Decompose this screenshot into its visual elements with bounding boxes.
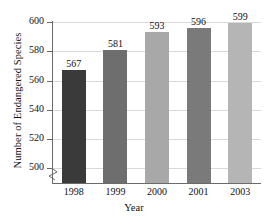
bar-column[interactable]: 596 — [187, 22, 211, 183]
bar-column[interactable]: 581 — [103, 22, 127, 183]
bar-value-label: 596 — [191, 16, 206, 27]
bar-value-label: 581 — [108, 38, 123, 49]
bar-value-label: 593 — [150, 20, 165, 31]
y-axis-line — [52, 21, 53, 184]
bar-column[interactable]: 567 — [62, 22, 86, 183]
y-tick-label: 520 — [4, 132, 44, 143]
x-tick-label: 1999 — [95, 186, 135, 197]
x-axis-line — [52, 183, 261, 184]
x-tick-label: 2003 — [220, 186, 260, 197]
x-axis-title: Year — [0, 202, 268, 213]
bar[interactable] — [145, 32, 169, 183]
x-tick-label: 1998 — [54, 186, 94, 197]
bar-column[interactable]: 599 — [228, 22, 252, 183]
y-tick-label: 540 — [4, 103, 44, 114]
bar[interactable] — [228, 23, 252, 183]
y-tick-label: 500 — [4, 161, 44, 172]
bar-value-label: 599 — [233, 11, 248, 22]
bar-column[interactable]: 593 — [145, 22, 169, 183]
bar-value-label: 567 — [66, 58, 81, 69]
y-tick-label: 580 — [4, 44, 44, 55]
x-tick-label: 2001 — [179, 186, 219, 197]
x-tick-label: 2000 — [137, 186, 177, 197]
y-tick-label: 600 — [4, 15, 44, 26]
bar[interactable] — [103, 50, 127, 183]
plot-area: 567581593596599 — [53, 22, 261, 183]
axis-break-icon — [48, 168, 58, 181]
y-tick-label: 560 — [4, 74, 44, 85]
bar[interactable] — [62, 70, 86, 183]
bar-chart: Number of Endangered Species 50052054056… — [0, 0, 268, 224]
bar[interactable] — [187, 28, 211, 183]
